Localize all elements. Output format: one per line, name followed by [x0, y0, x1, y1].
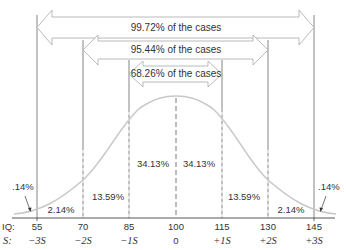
- s-tick: −2S: [74, 236, 92, 247]
- s-tick: 0: [173, 236, 178, 246]
- iq-tick: 145: [306, 222, 322, 232]
- s-axis-label: S:: [3, 236, 12, 247]
- s-tick: −3S: [28, 236, 46, 247]
- normal-curve: [14, 96, 336, 214]
- range-label-99-72: 99.72% of the cases: [131, 23, 222, 33]
- iq-tick: 100: [168, 222, 184, 232]
- s-tick: +1S: [213, 236, 231, 247]
- s-tick: −1S: [120, 236, 138, 247]
- iq-tick: 115: [214, 222, 229, 232]
- range-label-68-26: 68.26% of the cases: [131, 69, 222, 79]
- s-tick: +2S: [259, 236, 277, 247]
- segment-label-minus1-mean: 34.13%: [137, 159, 169, 169]
- segment-label-minus3-minus2: 2.14%: [48, 205, 75, 215]
- iq-tick: 70: [78, 222, 89, 232]
- iq-tick: 85: [124, 222, 135, 232]
- segment-label-plus2-plus3: 2.14%: [278, 205, 305, 215]
- s-tick: +3S: [305, 236, 323, 247]
- segment-label-left-tail: .14%: [12, 182, 34, 192]
- iq-tick: 130: [260, 222, 276, 232]
- normal-distribution-diagram: 99.72% of the cases 95.44% of the cases …: [0, 0, 346, 250]
- segment-label-plus1-plus2: 13.59%: [228, 192, 260, 202]
- range-label-95-44: 95.44% of the cases: [131, 45, 222, 55]
- iq-tick: 55: [32, 222, 43, 232]
- segment-label-minus2-minus1: 13.59%: [92, 192, 124, 202]
- segment-label-right-tail: .14%: [318, 182, 340, 192]
- iq-axis-label: IQ:: [2, 222, 15, 232]
- segment-label-mean-plus1: 34.13%: [183, 159, 215, 169]
